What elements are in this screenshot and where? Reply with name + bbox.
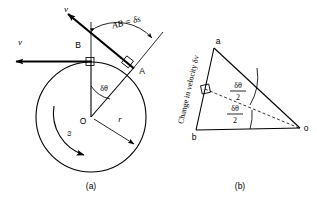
label-radius-r: r: [118, 114, 122, 124]
label-v-prime: v: [64, 4, 68, 14]
angle-arc-lower: [250, 110, 252, 129]
label-center-o: O: [80, 116, 87, 126]
label-vertex-b: b: [192, 132, 197, 142]
label-v: v: [18, 37, 22, 47]
label-vertex-a: a: [216, 36, 221, 46]
label-point-a: A: [139, 66, 145, 76]
angle-upper-numerator: δθ: [234, 81, 242, 90]
arc-extension-line-a: [134, 32, 164, 68]
figure-container: v v B A O r δθ AB = δs ω (a): [0, 0, 317, 204]
physics-figure-svg: v v B A O r δθ AB = δs ω (a): [0, 0, 317, 204]
angle-label-lower: δθ 2: [227, 104, 243, 125]
label-change-in-velocity: Change in velocity δv: [176, 54, 201, 124]
label-arc-length: AB = δs: [110, 14, 142, 31]
radius-r-arrow: [94, 119, 134, 144]
angle-arc-upper: [250, 68, 258, 105]
caption-a: (a): [86, 181, 97, 191]
angle-upper-denominator: 2: [236, 93, 240, 102]
panel-b-group: δθ 2 δθ 2 a b o Change in velocity δv (b…: [176, 36, 308, 191]
label-point-b: B: [75, 40, 81, 50]
caption-b: (b): [235, 181, 246, 191]
label-omega: ω: [64, 130, 74, 137]
label-delta-theta: δθ: [100, 84, 108, 93]
angle-lower-denominator: 2: [233, 116, 237, 125]
angle-lower-numerator: δθ: [231, 104, 239, 113]
angle-label-upper: δθ 2: [230, 81, 246, 102]
panel-a-group: v v B A O r δθ AB = δs ω (a): [16, 4, 163, 191]
triangle-side-bo: [196, 128, 300, 130]
omega-rotation-arrow: [53, 106, 84, 155]
label-vertex-o: o: [304, 123, 309, 133]
